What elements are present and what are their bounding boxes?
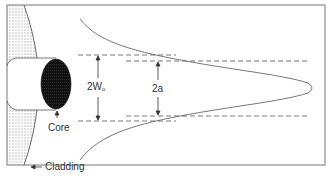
core-ellipse [41, 59, 71, 109]
mode-field-label-subscript: o [102, 86, 105, 92]
cladding-label: Cladding [45, 162, 84, 172]
mode-field-diameter-label: 2Wo [87, 82, 105, 92]
core-diameter-label: 2a [152, 84, 163, 94]
mode-field-label-text: 2W [87, 81, 102, 92]
gaussian-profile-curve [80, 19, 312, 160]
core-label: Core [48, 123, 70, 133]
cladding-pointer-arrow [31, 165, 42, 169]
core-pointer-arrow [55, 111, 59, 118]
fiber-mode-field-diagram [0, 0, 330, 183]
cladding-bottom [7, 101, 37, 165]
